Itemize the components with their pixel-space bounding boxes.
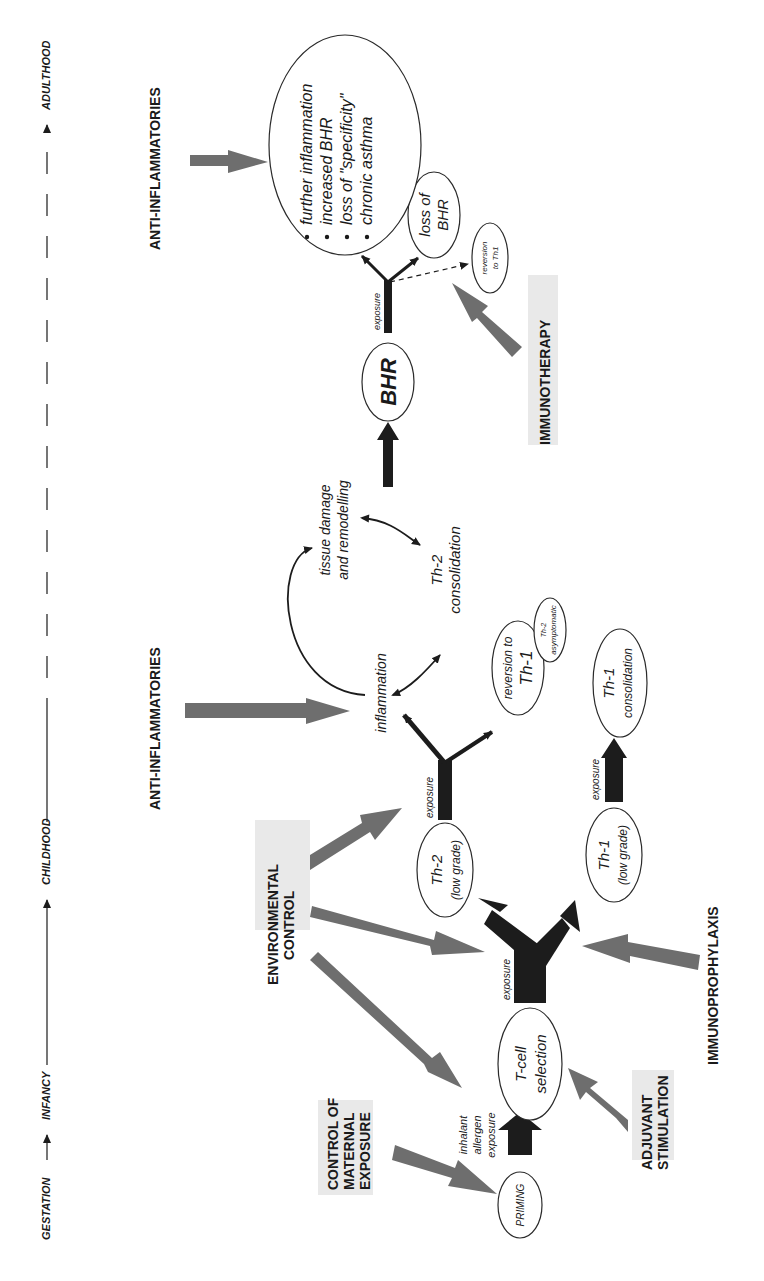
arrow-to-inflammation <box>185 698 350 724</box>
branch-bhr-y: exposure <box>362 256 468 333</box>
node-tissue-line-1: tissue damage <box>317 484 333 575</box>
arrow-to-inhalant <box>310 952 462 1088</box>
node-reversion-line-1: reversion to <box>501 636 515 699</box>
label-line-2: CONTROL <box>281 890 297 960</box>
label-line-3: EXPOSURE <box>357 1112 373 1190</box>
node-tcell-line-2: selection <box>532 1034 549 1093</box>
node-inhalant-exposure: inhalant allergen exposure <box>457 1112 497 1157</box>
arrow-to-tcell-y <box>582 934 700 970</box>
label-line-1: ENVIRONMENTAL <box>265 863 281 985</box>
node-th1-cons-line-2: consolidation <box>621 648 635 718</box>
bullet-2 <box>325 235 329 239</box>
label-line-2: MATERNAL <box>341 1112 357 1190</box>
label-line-1: CONTROL OF <box>325 1097 341 1190</box>
bullet-3 <box>345 235 349 239</box>
arrow-to-bhr <box>377 422 399 487</box>
timeline-adulthood: ADULTHOOD <box>40 40 52 111</box>
intervention-immunoprophylaxis: IMMUNOPROPHYLAXIS <box>582 906 721 1065</box>
exposure-label-th1: exposure <box>590 758 601 800</box>
label-line-2: STIMULATION <box>655 1075 671 1170</box>
outcome-4: chronic asthma <box>358 116 375 225</box>
timeline-infancy: INFANCY <box>40 1070 52 1120</box>
node-tcell-line-1: T-cell <box>512 1046 529 1082</box>
node-bhr-label: BHR <box>376 358 401 406</box>
bullet-4 <box>365 235 369 239</box>
arrow-to-exposure-th2 <box>310 808 402 870</box>
node-th2-low-grade <box>417 823 473 917</box>
intervention-immunotherapy: IMMUNOTHERAPY <box>452 275 558 445</box>
outcome-2: increased BHR <box>318 117 335 225</box>
inhalant-line-3: exposure <box>485 1112 497 1157</box>
branch-tcell-y: exposure <box>478 898 580 1003</box>
node-th2-low-line-2: (low grade) <box>449 840 463 900</box>
intervention-adjuvant: ADJUVANT STIMULATION <box>568 1068 674 1170</box>
arrow-tissue-th2-cons <box>362 518 420 545</box>
outcome-1: further inflammation <box>298 84 315 225</box>
branch-th2-y: exposure <box>404 715 492 820</box>
intervention-anti-inflammatories-adulthood: ANTI-INFLAMMATORIES <box>147 87 268 250</box>
node-reversion-th1-small <box>472 223 508 293</box>
node-th2-cons-line-2: consolidation <box>446 526 463 614</box>
node-inflammation: inflammation <box>373 653 389 733</box>
arrow-th1-exposure <box>601 738 627 802</box>
label-text: ANTI-INFLAMMATORIES <box>147 647 163 810</box>
node-tcell-selection <box>498 1008 562 1120</box>
node-rev-small-line-1: reversion <box>480 241 489 274</box>
node-loss-line-1: loss of <box>416 191 433 236</box>
outcome-3: loss of "specificity" <box>338 92 355 225</box>
arrow-to-tcell <box>568 1068 628 1132</box>
node-th1-low-line-1: Th-1 <box>595 840 612 871</box>
node-priming-label: PRIMING <box>515 1183 526 1226</box>
arrow-to-outcomes <box>190 150 268 173</box>
timeline-childhood: CHILDHOOD <box>40 818 52 885</box>
exposure-label-2: exposure <box>424 776 435 818</box>
exposure-label-1: exposure <box>501 958 512 1000</box>
node-th1-low-line-2: (low grade) <box>616 825 630 885</box>
inhalant-line-2: allergen <box>471 1115 483 1154</box>
label-text: IMMUNOTHERAPY <box>537 319 553 445</box>
arrow-inflammation-th2-cons <box>393 655 440 695</box>
diagram-canvas: GESTATION INFANCY CHILDHOOD ADULTHOOD CO… <box>0 0 764 1281</box>
label-text: ANTI-INFLAMMATORIES <box>147 87 163 250</box>
arrow-to-reversion <box>452 283 522 357</box>
node-asym-line-1: Th-2 <box>540 623 547 638</box>
inhalant-line-1: inhalant <box>457 1115 469 1154</box>
label-text: IMMUNOPROPHYLAXIS <box>705 906 721 1065</box>
node-tissue-line-2: and remodelling <box>335 480 351 580</box>
timeline: GESTATION INFANCY CHILDHOOD ADULTHOOD <box>40 40 52 1240</box>
node-th1-cons-line-1: Th-1 <box>600 668 617 699</box>
bullet-1 <box>305 235 309 239</box>
node-th2-cons-line-1: Th-2 <box>428 554 445 586</box>
node-th2-low-line-1: Th-2 <box>428 854 445 886</box>
exposure-label-3: exposure <box>372 293 382 330</box>
intervention-anti-inflammatories-childhood: ANTI-INFLAMMATORIES <box>147 647 350 810</box>
node-rev-small-line-2: to Th1 <box>491 247 500 270</box>
node-loss-line-2: BHR <box>434 199 451 231</box>
node-reversion-line-2: Th-1 <box>517 651 536 686</box>
node-asym-line-2: asymptomatic <box>549 605 558 654</box>
arrow-to-tcell-y <box>310 906 485 955</box>
label-line-1: ADJUVANT <box>639 1094 655 1170</box>
timeline-gestation: GESTATION <box>40 1176 52 1240</box>
